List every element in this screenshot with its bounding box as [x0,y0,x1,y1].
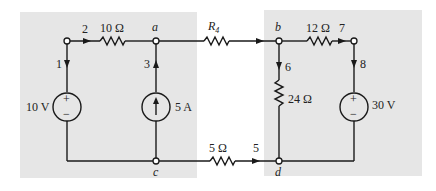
v30-minus: − [350,107,357,121]
branch-1-label: 1 [56,57,62,71]
branch-8-label: 8 [360,57,366,71]
r5-label: 5 Ω [209,141,227,155]
node-c [153,158,159,164]
node-a [153,38,159,44]
r12-label: 12 Ω [306,21,330,35]
v30-plus: + [350,92,357,106]
node-d-label: d [275,165,282,179]
node-a-label: a [152,20,158,34]
v10-plus: + [63,92,70,106]
v10-minus: − [63,107,70,121]
r10-label: 10 Ω [100,21,124,35]
branch-6-label: 6 [285,60,291,74]
i5-label: 5 A [175,100,192,114]
node-right-top [351,38,357,44]
branch-2-label: 2 [82,22,88,36]
v10-label: 10 V [26,100,50,114]
branch-3-label: 3 [144,57,150,71]
r4-label: R4 [207,19,219,35]
left-panel [20,12,197,178]
branch-5-label: 5 [253,141,259,155]
node-left-top [64,38,70,44]
node-b-label: b [275,20,281,34]
node-c-label: c [153,165,159,179]
r24-label: 24 Ω [288,92,312,106]
v30-label: 30 V [372,98,396,112]
branch-7-label: 7 [339,21,345,35]
circuit-diagram: 2 10 Ω a R4 b 12 Ω 7 1 3 6 8 10 V + − 5 … [0,0,436,191]
node-b [276,38,282,44]
node-d [276,158,282,164]
